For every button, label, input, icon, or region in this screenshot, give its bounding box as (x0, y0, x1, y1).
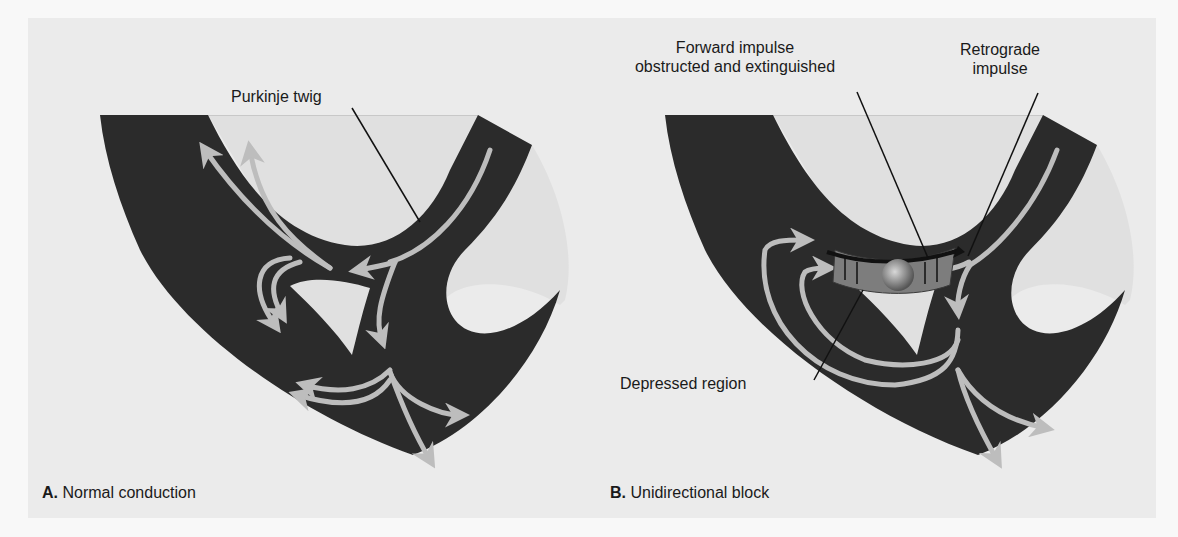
label-purkinje-twig: Purkinje twig (231, 87, 322, 106)
label-retrograde-line2: impulse (940, 59, 1060, 78)
caption-a-letter: A. (42, 484, 58, 501)
caption-a-text: Normal conduction (62, 484, 195, 501)
label-retrograde-line1: Retrograde (940, 40, 1060, 59)
caption-panel-a: A. Normal conduction (42, 484, 196, 502)
caption-b-letter: B. (610, 484, 626, 501)
label-depressed-region: Depressed region (620, 374, 746, 393)
panel-b-diagram (665, 92, 1134, 460)
caption-b-text: Unidirectional block (630, 484, 769, 501)
label-forward-impulse: Forward impulse obstructed and extinguis… (600, 38, 870, 76)
label-forward-impulse-line2: obstructed and extinguished (600, 57, 870, 76)
label-retrograde-impulse: Retrograde impulse (940, 40, 1060, 78)
panel-a-diagram (100, 108, 569, 460)
conduction-diagram (0, 0, 1178, 537)
caption-panel-b: B. Unidirectional block (610, 484, 769, 502)
block-sphere (882, 259, 914, 291)
label-forward-impulse-line1: Forward impulse (600, 38, 870, 57)
